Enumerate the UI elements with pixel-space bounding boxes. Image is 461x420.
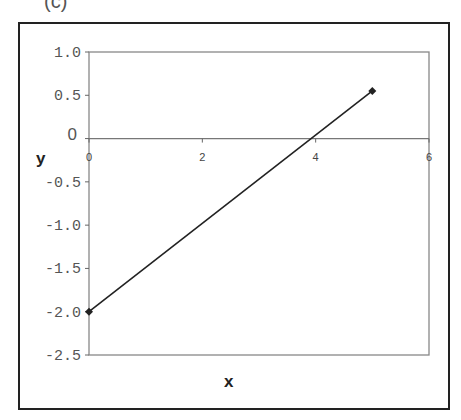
y-tick-label: -0.5 <box>45 175 81 192</box>
y-tick-label: 1.0 <box>54 45 81 62</box>
y-tick-label: -1.5 <box>45 261 81 278</box>
series-line <box>89 91 372 312</box>
y-tick-label: 0.5 <box>54 88 81 105</box>
line-chart: 1.00.50-0.5-1.0-1.5-2.0-2.5 0246 y x <box>0 0 461 420</box>
x-axis-title: x <box>224 372 234 391</box>
plot-area <box>89 52 429 355</box>
data-series <box>85 87 376 316</box>
x-tick-label: 4 <box>313 151 319 163</box>
y-tick-label: -1.0 <box>45 218 81 235</box>
x-tick-label: 2 <box>199 151 205 163</box>
y-tick-label: -2.0 <box>45 305 81 322</box>
x-tick-label: 6 <box>426 151 432 163</box>
x-tick-label: 0 <box>86 151 92 163</box>
y-axis-title: y <box>36 149 46 168</box>
x-axis: 0246 <box>86 139 432 163</box>
y-tick-label: -2.5 <box>45 348 81 365</box>
y-tick-label: 0 <box>68 125 77 144</box>
y-axis-ticks: 1.00.50-0.5-1.0-1.5-2.0-2.5 <box>45 45 89 365</box>
